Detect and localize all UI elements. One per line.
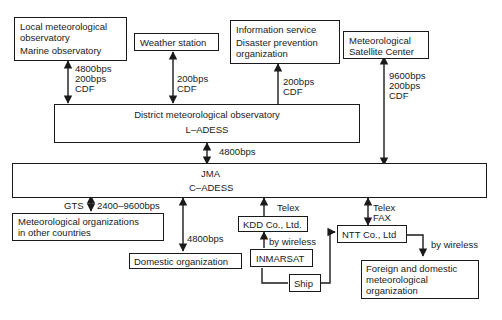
inmarsat-node: INMARSAT (250, 249, 313, 267)
weather-label: Weather station (140, 37, 206, 48)
ntt-label: NTT Co., Ltd (342, 229, 396, 240)
local-district-link-label: 4800bps 200bps CDF (75, 64, 111, 94)
local-observatory-node: Local meteorological observatory Marine … (14, 17, 127, 61)
inmarsat-label: INMARSAT (256, 253, 304, 264)
fd-met-line1: Foreign and domestic (366, 263, 474, 274)
ntt-fd-link-label: by wireless (431, 240, 478, 250)
district-line2: L–ADESS (55, 124, 359, 135)
weather-district-link-label: 200bps CDF (177, 74, 208, 94)
local-line3: Marine observatory (20, 45, 121, 56)
foreign-met-line1: Meteorological organizations (18, 216, 158, 227)
fd-met-line3: organization (366, 285, 474, 296)
jma-line1: JMA (201, 168, 486, 179)
satellite-jma-link-label: 9600bps 200bps CDF (389, 71, 425, 101)
domestic-jma-link-label: 4800bps (187, 234, 223, 244)
satellite-line1: Meteorological (349, 35, 423, 46)
jma-line2: C–ADESS (189, 182, 486, 193)
ntt-jma-link-label: Telex FAX (373, 203, 395, 223)
district-observatory-node: District meteorological observatory L–AD… (54, 104, 360, 143)
local-line2: observatory (20, 32, 121, 43)
gts-left-label: GTS (64, 201, 84, 211)
ntt-node: NTT Co., Ltd (337, 225, 407, 243)
weather-station-node: Weather station (134, 33, 219, 51)
information-service-node: Information service Disaster prevention … (230, 20, 340, 64)
info-district-link-label: 200bps CDF (283, 77, 314, 97)
kdd-label: KDD Co., Ltd. (243, 219, 302, 230)
foreign-domestic-met-org-node: Foreign and domestic meteorological orga… (361, 260, 479, 299)
foreign-met-org-node: Meteorological organizations in other co… (12, 213, 164, 241)
inmarsat-kdd-link-label: by wireless (269, 237, 316, 247)
domestic-org-node: Domestic organization (129, 253, 242, 269)
district-jma-link-label: 4800bps (219, 147, 255, 157)
gts-rate-label: 2400–9600bps (97, 201, 160, 211)
fd-met-line2: meteorological (366, 274, 474, 285)
kdd-node: KDD Co., Ltd. (238, 216, 308, 232)
kdd-jma-link-label: Telex (277, 203, 299, 213)
info-line2: Disaster prevention (236, 37, 334, 48)
satellite-line2: Satellite Center (349, 46, 423, 57)
district-line1: District meteorological observatory (55, 109, 359, 120)
satellite-center-node: Meteorological Satellite Center (343, 31, 429, 59)
info-line3: organization (236, 48, 334, 59)
info-line1: Information service (236, 24, 334, 35)
ship-label: Ship (294, 278, 313, 289)
jma-cadess-node: JMA C–ADESS (12, 163, 487, 198)
domestic-label: Domestic organization (134, 256, 228, 267)
foreign-met-line2: in other countries (18, 227, 158, 238)
local-line1: Local meteorological (20, 21, 121, 32)
ship-node: Ship (289, 274, 321, 292)
